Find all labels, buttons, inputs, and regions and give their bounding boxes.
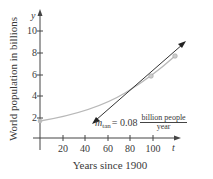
x-axis-title: Years since 1900 [40,160,180,170]
slope-units: billion people year [140,114,186,131]
y-tick-label: 8 [25,48,37,58]
population-curve [40,56,175,121]
slope-symbol: m [95,118,102,128]
slope-annotation: mtan = 0.08 billion people year [95,114,187,131]
point-upper [173,54,178,59]
x-tick-label: 20 [53,144,73,154]
x-axis-variable: t [172,143,175,153]
slope-value: = 0.08 [112,118,138,128]
tangent-line [96,44,183,120]
x-tick-label: 100 [143,144,163,154]
x-tick-label: 60 [98,144,118,154]
y-axis-arrow-icon [38,9,43,16]
point-start [38,119,43,124]
point-tangency [149,74,154,79]
y-tick-label: 10 [25,26,37,36]
y-tick-label: 6 [25,70,37,80]
slope-units-denominator: year [157,123,171,131]
y-axis-title: World population in billions [8,14,18,144]
x-axis-arrow-icon [174,136,181,141]
y-axis-variable: y [31,11,35,21]
y-tick-label: 2 [25,113,37,123]
slope-subscript: tan [102,121,111,131]
x-tick-label: 40 [75,144,95,154]
x-tick-label: 80 [120,144,140,154]
y-tick-label: 4 [25,91,37,101]
